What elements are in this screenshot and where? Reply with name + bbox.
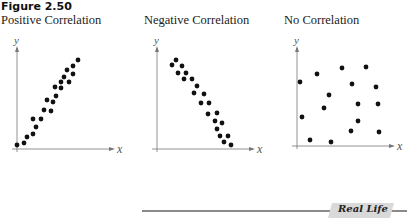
y-arrow-icon: [155, 46, 159, 52]
y-axis-label: y: [153, 34, 159, 46]
data-point: [176, 71, 181, 76]
scatter-plots: yxyxyx: [0, 0, 407, 222]
data-point: [206, 112, 211, 117]
data-point: [207, 101, 212, 106]
real-life-label: Real Life: [338, 203, 388, 214]
y-axis-label: y: [293, 34, 299, 46]
data-point: [54, 94, 59, 99]
data-point: [329, 140, 334, 145]
x-axis-label: x: [256, 142, 263, 156]
data-point: [215, 127, 220, 132]
data-point: [59, 86, 64, 91]
data-point: [300, 115, 305, 120]
data-point: [71, 64, 76, 69]
scatter-panel-none: yx: [292, 34, 403, 153]
data-point: [76, 58, 81, 63]
data-point: [356, 119, 361, 124]
data-point: [215, 111, 220, 116]
data-point: [218, 134, 223, 139]
data-point: [190, 77, 195, 82]
data-point: [226, 134, 231, 139]
scatter-panel-positive: yx: [12, 34, 123, 156]
data-point: [195, 84, 200, 89]
data-point: [45, 98, 50, 103]
data-point: [202, 92, 207, 97]
scatter-panel-negative: yx: [152, 34, 263, 156]
y-arrow-icon: [15, 46, 19, 52]
data-point: [25, 135, 30, 140]
data-point: [374, 85, 379, 90]
data-point: [49, 109, 54, 114]
data-point: [322, 106, 327, 111]
data-point: [22, 141, 27, 146]
data-point: [39, 117, 44, 122]
data-point: [192, 91, 197, 96]
data-point: [59, 80, 64, 85]
data-point: [340, 66, 345, 71]
data-point: [31, 117, 36, 122]
data-point: [31, 132, 36, 137]
data-point: [34, 125, 39, 130]
data-point: [184, 71, 189, 76]
data-point: [350, 82, 355, 87]
data-point: [170, 63, 175, 68]
data-point: [53, 85, 58, 90]
y-axis-label: y: [13, 34, 19, 46]
data-point: [51, 100, 56, 105]
data-point: [308, 138, 313, 143]
data-point: [15, 143, 20, 148]
data-point: [315, 72, 320, 77]
data-point: [356, 102, 361, 107]
data-point: [67, 80, 72, 85]
data-point: [182, 77, 187, 82]
x-arrow-icon: [249, 147, 255, 151]
data-point: [377, 130, 382, 135]
data-point: [62, 75, 67, 80]
y-arrow-icon: [295, 46, 299, 52]
x-arrow-icon: [109, 147, 115, 151]
data-point: [213, 119, 218, 124]
x-axis-label: x: [116, 142, 123, 156]
data-point: [220, 121, 225, 126]
data-point: [364, 65, 369, 70]
data-point: [199, 101, 204, 106]
data-point: [229, 143, 234, 148]
x-arrow-icon: [389, 144, 395, 148]
x-axis-label: x: [396, 139, 403, 153]
data-point: [222, 140, 227, 145]
data-point: [174, 58, 179, 63]
data-point: [349, 129, 354, 134]
data-point: [298, 80, 303, 85]
data-point: [376, 102, 381, 107]
data-point: [71, 72, 76, 77]
data-point: [42, 108, 47, 113]
data-point: [65, 68, 70, 73]
data-point: [327, 93, 332, 98]
data-point: [180, 64, 185, 69]
